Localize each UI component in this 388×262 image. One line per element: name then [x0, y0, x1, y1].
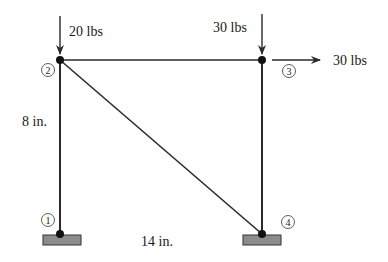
node-label-1: 1 [42, 214, 55, 227]
svg-text:1: 1 [46, 215, 51, 226]
node-3 [258, 56, 266, 64]
node-2 [56, 56, 64, 64]
node-label-3: 3 [283, 65, 296, 78]
svg-text:4: 4 [286, 217, 291, 228]
dimension-width-label: 14 in. [141, 234, 173, 249]
member-2-4 [60, 60, 262, 234]
node-1 [56, 230, 64, 238]
svg-text:2: 2 [46, 65, 51, 76]
load-label-node-3-vertical: 30 lbs [213, 20, 247, 35]
load-label-node-3-horizontal: 30 lbs [333, 53, 367, 68]
truss-diagram: 1 2 3 4 20 lbs 30 lbs 30 lbs 8 in. 14 in… [0, 0, 388, 262]
svg-text:3: 3 [287, 66, 292, 77]
load-label-node-2: 20 lbs [69, 24, 103, 39]
node-4 [258, 230, 266, 238]
dimension-height-label: 8 in. [22, 114, 47, 129]
node-label-4: 4 [282, 216, 295, 229]
node-label-2: 2 [42, 64, 55, 77]
